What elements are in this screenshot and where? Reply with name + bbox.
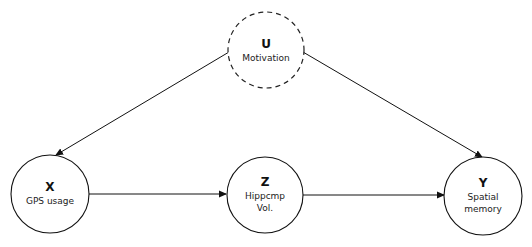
node-u-label: Motivation [242, 53, 289, 63]
node-x-letter: X [45, 180, 55, 194]
node-u: U Motivation [228, 12, 304, 88]
node-y-label-line2: memory [464, 204, 502, 214]
node-x-label: GPS usage [26, 196, 75, 206]
node-y-label-line1: Spatial [468, 192, 499, 202]
node-x-circle [11, 155, 89, 233]
node-z-letter: Z [261, 175, 270, 189]
node-x: X GPS usage [11, 155, 89, 233]
edge-u-to-x [56, 52, 229, 155]
node-y-letter: Y [478, 176, 488, 190]
causal-diagram: U Motivation X GPS usage Z Hippcmp Vol. … [0, 0, 532, 247]
node-u-letter: U [261, 37, 271, 51]
node-z-label-line2: Vol. [257, 203, 273, 213]
node-z-label-line1: Hippcmp [245, 191, 285, 201]
edge-u-to-y [303, 52, 482, 157]
node-z: Z Hippcmp Vol. [227, 157, 303, 233]
node-y: Y Spatial memory [444, 157, 522, 235]
